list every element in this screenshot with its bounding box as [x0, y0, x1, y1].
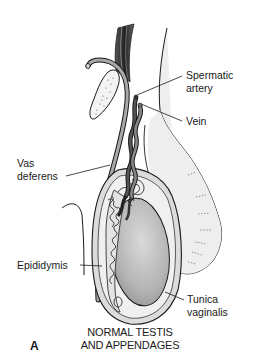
- anatomy-figure: Spermatic artery Vein Vas deferens Epidi…: [0, 0, 256, 360]
- label-tunica-vaginalis-line1: Tunica: [187, 293, 218, 305]
- label-vas-deferens-line1: Vas: [17, 157, 34, 169]
- label-vein: Vein: [186, 115, 206, 127]
- caption-line-2: AND APPENDAGES: [70, 339, 190, 352]
- caption-line-1: NORMAL TESTIS: [70, 326, 190, 339]
- label-spermatic-artery-line1: Spermatic: [186, 69, 233, 81]
- pubic-bone: [90, 70, 119, 119]
- figure-caption: NORMAL TESTIS AND APPENDAGES: [70, 326, 190, 352]
- label-epididymis: Epididymis: [17, 259, 68, 271]
- label-tunica-vaginalis-line2: vaginalis: [187, 306, 228, 318]
- label-vas-deferens-line2: deferens: [17, 170, 58, 182]
- label-spermatic-artery-line2: artery: [186, 82, 213, 94]
- panel-letter: A: [30, 339, 39, 353]
